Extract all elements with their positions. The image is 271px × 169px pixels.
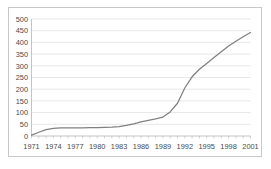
y-axis-tick-label: 450	[16, 26, 28, 35]
x-axis-tick-label: 1980	[89, 142, 105, 151]
x-axis-tick-label: 1971	[23, 142, 39, 151]
y-axis-tick-label: 150	[16, 97, 28, 106]
y-axis-tick-label: 300	[16, 62, 28, 71]
y-axis-tick-label: 200	[16, 85, 28, 94]
line-chart: 0501001502002503003504004505001971197419…	[0, 0, 271, 169]
y-axis-tick-label: 100	[16, 108, 28, 117]
x-axis-tick-label: 1977	[67, 142, 83, 151]
x-axis-tick-label: 1998	[220, 142, 236, 151]
x-axis-tick-label: 2001	[242, 142, 258, 151]
x-axis-tick-label: 1992	[177, 142, 193, 151]
y-axis-tick-label: 0	[24, 132, 28, 141]
x-axis-tick-label: 1989	[155, 142, 171, 151]
x-axis-tick-label: 1995	[198, 142, 214, 151]
chart-container: 0501001502002503003504004505001971197419…	[0, 0, 271, 169]
y-axis-tick-label: 400	[16, 38, 28, 47]
y-axis-tick-label: 50	[20, 120, 28, 129]
data-series-line	[32, 33, 251, 135]
y-axis-tick-label: 350	[16, 50, 28, 59]
y-axis-tick-label: 500	[16, 15, 28, 24]
x-axis-tick-label: 1986	[133, 142, 149, 151]
x-axis-tick-label: 1983	[111, 142, 127, 151]
y-axis-tick-label: 250	[16, 73, 28, 82]
x-axis-tick-label: 1974	[45, 142, 61, 151]
